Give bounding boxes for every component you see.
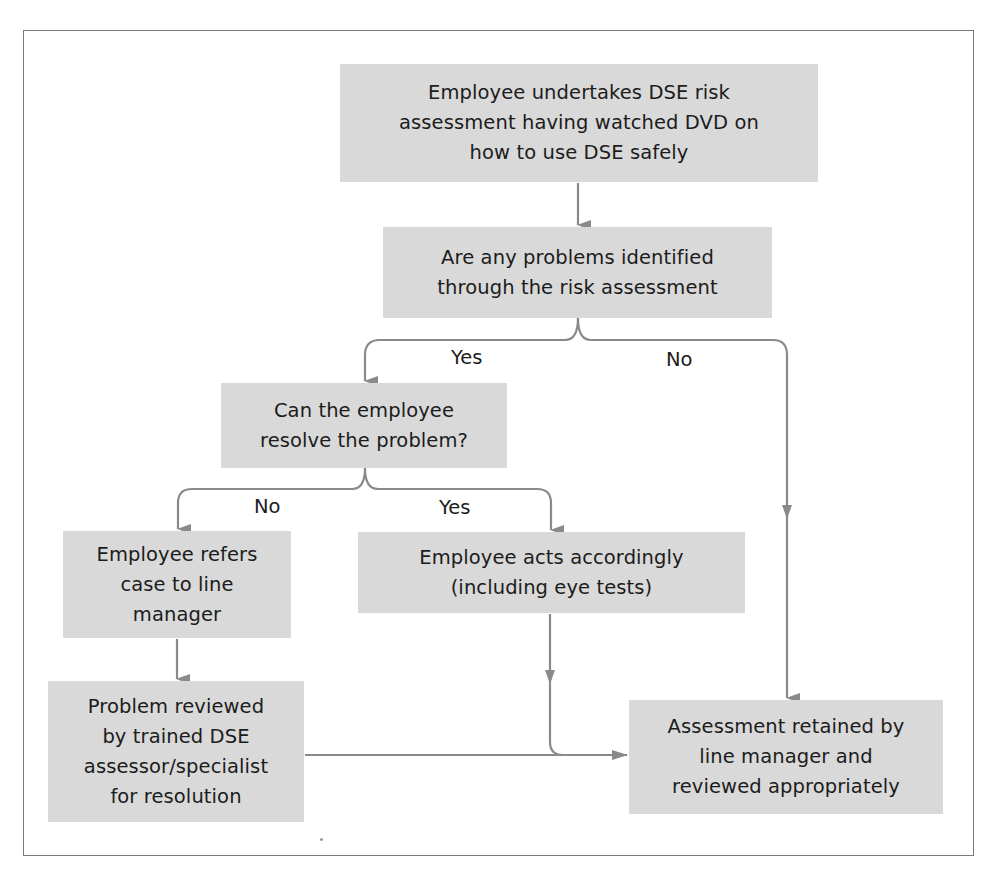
node-assessment-retained: Assessment retained by line manager and …	[629, 700, 943, 814]
node-start: Employee undertakes DSE risk assessment …	[340, 64, 818, 182]
label-problems-no: No	[666, 348, 693, 372]
label-resolve-no: No	[254, 495, 281, 519]
label-problems-yes: Yes	[451, 346, 482, 370]
node-acts-accordingly: Employee acts accordingly (including eye…	[358, 532, 745, 613]
node-problem-reviewed: Problem reviewed by trained DSE assessor…	[48, 681, 304, 822]
scan-speck	[320, 838, 323, 841]
node-refer-line-manager: Employee refers case to line manager	[63, 531, 291, 638]
label-resolve-yes: Yes	[439, 496, 470, 520]
node-can-resolve: Can the employee resolve the problem?	[221, 383, 507, 468]
node-problems-identified: Are any problems identified through the …	[383, 227, 772, 318]
